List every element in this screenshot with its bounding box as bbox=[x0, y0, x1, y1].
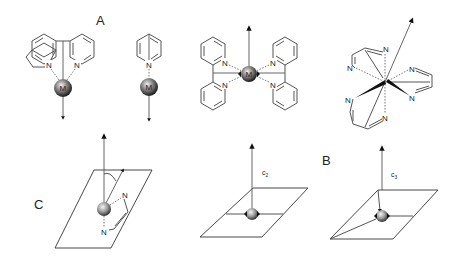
nitrogen-label: N bbox=[383, 45, 389, 54]
panel-label-a: A bbox=[96, 13, 105, 28]
c2-axis-plane-structure: c2 bbox=[200, 146, 308, 237]
nitrogen-label: N bbox=[409, 94, 415, 103]
nitrogen-label: N bbox=[101, 228, 107, 237]
diagram-figure: A N N M bbox=[0, 0, 460, 258]
nitrogen-label: N bbox=[74, 61, 80, 70]
metal-label: M bbox=[246, 70, 253, 79]
bipyridine-chelate-structure: N N M bbox=[26, 34, 94, 118]
nitrogen-label: N bbox=[382, 114, 388, 123]
metal-label: M bbox=[60, 84, 67, 93]
nitrogen-label: N bbox=[347, 64, 353, 73]
panel-label-b: B bbox=[322, 153, 331, 168]
nitrogen-label: N bbox=[270, 81, 276, 90]
nitrogen-label: N bbox=[345, 96, 351, 105]
nitrogen-label: N bbox=[270, 59, 276, 68]
c3-axis-plane-structure: c3 bbox=[330, 148, 438, 239]
c2-axis-label: c2 bbox=[262, 169, 269, 178]
nitrogen-label: N bbox=[222, 59, 228, 68]
metal-label: M bbox=[146, 83, 153, 92]
panel-label-c: C bbox=[34, 197, 43, 212]
nitrogen-label: N bbox=[146, 61, 152, 70]
pyridine-monodentate-structure: N M bbox=[137, 34, 161, 120]
bis-bipyridine-structure: N N N N M bbox=[201, 28, 297, 110]
chelate-plane-structure: N N bbox=[55, 136, 152, 248]
c3-axis-label: c3 bbox=[391, 171, 398, 180]
nitrogen-label: N bbox=[409, 65, 415, 74]
nitrogen-label: N bbox=[46, 61, 52, 70]
tris-diimine-structure: N N N N N N bbox=[345, 20, 432, 129]
nitrogen-label: N bbox=[122, 191, 128, 200]
nitrogen-label: N bbox=[222, 81, 228, 90]
